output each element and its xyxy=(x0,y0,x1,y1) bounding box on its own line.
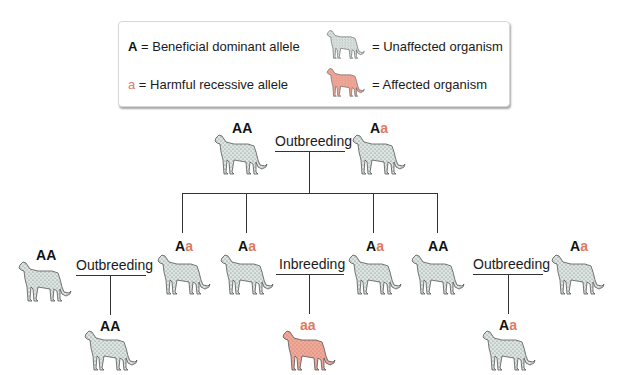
right-cross-label: Outbreeding xyxy=(473,256,550,272)
offspring2-cheetah-icon xyxy=(218,252,274,296)
right-result-line xyxy=(508,274,509,314)
offspring1-cheetah-icon xyxy=(155,252,211,296)
legend-affected: = Affected organism xyxy=(372,77,487,92)
legend-recessive: a = Harmful recessive allele xyxy=(128,77,288,92)
top-cross-label: Outbreeding xyxy=(275,133,352,149)
unaffected-cheetah-icon xyxy=(325,28,365,60)
result3-cheetah-icon xyxy=(480,328,536,372)
offspring4-cheetah-icon xyxy=(409,252,465,296)
legend-box: A = Beneficial dominant allele a = Harmf… xyxy=(118,21,510,107)
affected-cheetah-icon xyxy=(325,66,365,98)
result1-cheetah-icon xyxy=(82,328,138,372)
offspring3-line xyxy=(373,193,374,233)
offspring2-line xyxy=(246,193,247,233)
dominant-allele-symbol: A xyxy=(128,39,137,54)
top-drop-line xyxy=(309,151,310,193)
parent2-cheetah-icon xyxy=(350,132,406,176)
recessive-allele-desc: = Harmful recessive allele xyxy=(135,77,288,92)
result2-affected-cheetah-icon xyxy=(280,328,336,372)
left-cross-label: Outbreeding xyxy=(76,257,153,273)
right-mate-cheetah-icon xyxy=(549,252,605,296)
offspring3-cheetah-icon xyxy=(346,252,402,296)
offspring4-line xyxy=(437,193,438,233)
top-cross-underline xyxy=(275,151,345,152)
middle-result-line xyxy=(309,274,310,314)
legend-unaffected: = Unaffected organism xyxy=(372,39,503,54)
left-mate-cheetah-icon xyxy=(16,259,72,303)
middle-cross-underline xyxy=(276,274,344,275)
middle-cross-label: Inbreeding xyxy=(279,256,345,272)
sibling-bar xyxy=(182,193,438,194)
dominant-allele-desc: = Beneficial dominant allele xyxy=(137,39,299,54)
parent1-cheetah-icon xyxy=(212,132,268,176)
legend-dominant: A = Beneficial dominant allele xyxy=(128,39,300,54)
offspring1-line xyxy=(182,193,183,233)
left-result-line xyxy=(110,275,111,315)
left-cross-underline xyxy=(76,275,146,276)
